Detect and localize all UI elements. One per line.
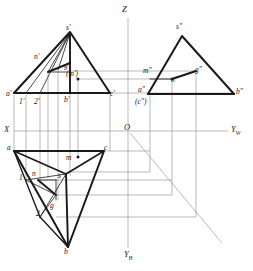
label-c-double-prime: (c") (135, 98, 146, 106)
z-axis-label: Z (122, 5, 127, 14)
label-s: s (58, 172, 61, 180)
x-axis-label: X (4, 125, 9, 134)
label-s-prime: s' (66, 24, 71, 32)
label-n-prime: n' (34, 53, 39, 61)
label-two: 2 (36, 210, 40, 218)
label-c: c (104, 144, 107, 152)
label-b-prime: b' (64, 96, 69, 104)
label-b: b (64, 248, 68, 256)
front-view-outline (14, 32, 110, 93)
label-c-prime: c' (110, 90, 115, 98)
top-view-group (14, 151, 104, 247)
yh-axis-subscript: H (129, 255, 133, 261)
label-one: 1 (19, 174, 23, 182)
origin-label: O (124, 123, 130, 132)
side-view-outline (148, 36, 234, 94)
edge-c-s-top (66, 151, 104, 174)
construction-lines (14, 18, 234, 248)
label-m-prime: (m') (66, 70, 78, 78)
label-g: g (50, 202, 54, 210)
side-view-group (148, 36, 234, 94)
label-n: n (32, 170, 36, 178)
geometry-figure-canvas: X Z O YW YH s' a' b' c' n' g' (m') 1' 2'… (0, 0, 253, 271)
label-one-prime: 1' (19, 98, 24, 106)
point-marker-m (77, 156, 80, 159)
label-two-prime: 2' (34, 98, 39, 106)
front-view-group (14, 32, 110, 93)
label-a: a (7, 144, 11, 152)
yh-axis-label: YH (124, 250, 132, 261)
edge-2-s-top (40, 174, 66, 217)
label-s-double-prime: s" (176, 23, 182, 31)
label-a-double-prime: a" (138, 86, 145, 94)
yw-axis-subscript: W (236, 130, 241, 136)
label-b-double-prime: b" (236, 88, 243, 96)
label-m: m (66, 154, 71, 162)
label-a-prime: a' (6, 90, 11, 98)
label-m-double-prime: m" (143, 67, 152, 75)
edge-s-b-top (66, 174, 68, 247)
projection-drawing (0, 0, 253, 271)
forty-five-degree-line (130, 133, 222, 243)
yw-axis-label: YW (231, 125, 241, 136)
label-n-double-prime: n" (171, 76, 178, 84)
top-view-outline (14, 151, 104, 247)
label-g-double-prime: g" (195, 66, 202, 74)
